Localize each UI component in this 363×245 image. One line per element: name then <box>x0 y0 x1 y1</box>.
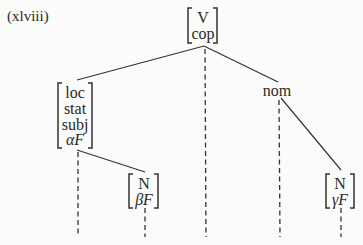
left-bracket <box>129 174 133 208</box>
feature-loc: loc <box>65 84 85 101</box>
example-label: (xlviii) <box>7 8 49 25</box>
branch-root-left <box>77 46 204 80</box>
feature-n: N <box>334 175 346 192</box>
feature-alpha-f: αF <box>66 131 84 148</box>
feature-beta-f: βF <box>134 191 153 209</box>
left-bracket <box>326 174 330 208</box>
feature-gamma-f: γF <box>332 191 348 209</box>
root-node: V cop <box>188 8 217 43</box>
right-bracket <box>154 174 158 208</box>
feature-n: N <box>138 175 150 192</box>
tree-diagram: (xlviii) V cop loc stat subj αF N βF nom… <box>0 0 363 245</box>
left-node: loc stat subj αF <box>58 83 92 148</box>
nom-node: nom <box>263 82 292 99</box>
dashed-nom <box>279 100 280 237</box>
feature-v: V <box>197 9 209 26</box>
dashed-root-center <box>205 49 206 237</box>
branch-root-right <box>204 46 278 82</box>
feature-cop: cop <box>191 25 214 43</box>
branch-left-child <box>77 150 145 172</box>
branch-nom-child <box>281 98 341 170</box>
feature-stat: stat <box>64 100 87 117</box>
right-bracket <box>88 83 92 148</box>
right-bracket <box>350 174 354 208</box>
right-child-node: N γF <box>326 174 354 209</box>
left-child-node: N βF <box>129 174 158 209</box>
